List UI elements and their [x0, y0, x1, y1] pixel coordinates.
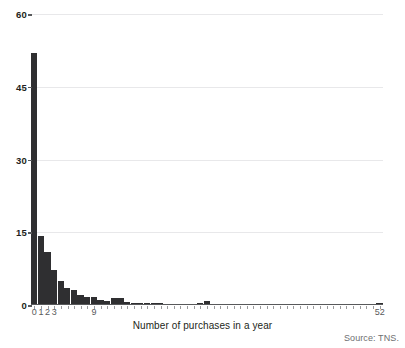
x-axis-tick-label: 1 — [38, 307, 43, 317]
source-note: Source: TNS. — [344, 333, 399, 343]
x-axis-tick-labels: 0123952 — [31, 307, 383, 320]
bar — [31, 53, 37, 305]
y-axis-tick-label: 30 — [16, 154, 27, 165]
bar — [38, 236, 44, 305]
bar-series — [31, 14, 383, 305]
x-axis-tick-label: 3 — [52, 307, 57, 317]
y-axis-tick-label: 45 — [16, 81, 27, 92]
plot-area — [31, 14, 383, 305]
y-axis-tick-label: 15 — [16, 227, 27, 238]
x-axis-line — [31, 304, 383, 306]
x-axis-tick-label: 9 — [92, 307, 97, 317]
y-axis-tick-mark — [28, 87, 32, 89]
bar — [64, 288, 70, 305]
bar — [58, 281, 64, 305]
y-axis-tick-label: 0 — [22, 300, 27, 311]
x-axis-tick-label: 52 — [375, 307, 385, 317]
y-axis-tick-mark — [28, 14, 32, 16]
x-axis-tick-label: 2 — [45, 307, 50, 317]
x-axis-tick-label: 0 — [32, 307, 37, 317]
y-axis-tick-label: 60 — [16, 9, 27, 20]
x-axis-title: Number of purchases in a year — [0, 320, 405, 331]
bar — [51, 270, 57, 305]
bar — [44, 252, 50, 305]
y-axis-tick-mark — [28, 160, 32, 162]
histogram-chart: 015304560 0123952 Number of purchases in… — [0, 0, 405, 348]
y-axis-tick-mark — [28, 232, 32, 234]
